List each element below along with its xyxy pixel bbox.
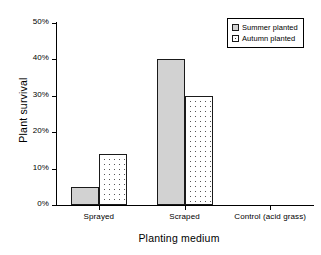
y-tick-label: 10% [33, 163, 49, 172]
y-tick-label: 50% [33, 17, 49, 26]
bar-summer-planted-sprayed [71, 187, 99, 205]
legend-item-autumn: Autumn planted [232, 33, 298, 44]
legend-swatch-summer-icon [232, 24, 239, 31]
y-tick: 20% [0, 132, 56, 133]
y-tick-label: 20% [33, 126, 49, 135]
y-tick: 10% [0, 169, 56, 170]
y-tick: 0% [0, 205, 56, 206]
legend: Summer planted Autumn planted [227, 18, 304, 48]
x-tick-mark [99, 205, 100, 210]
plot-area [56, 23, 313, 205]
legend-label-summer: Summer planted [242, 23, 298, 32]
bar-autumn-planted-scraped [185, 96, 213, 205]
y-tick: 50% [0, 23, 56, 24]
y-tick-label: 40% [33, 53, 49, 62]
bar-autumn-planted-sprayed [99, 154, 127, 205]
x-axis-title: Planting medium [44, 232, 314, 244]
y-tick-label: 30% [33, 90, 49, 99]
x-tick-mark [270, 205, 271, 210]
y-tick: 40% [0, 59, 56, 60]
y-tick-label: 0% [37, 199, 49, 208]
legend-item-summer: Summer planted [232, 22, 298, 33]
y-tick-mark [52, 205, 56, 206]
bar-chart: Plant survival Planting medium 0%10%20%3… [0, 0, 321, 255]
legend-swatch-autumn-icon [232, 35, 239, 42]
y-tick: 30% [0, 96, 56, 97]
legend-label-autumn: Autumn planted [242, 34, 295, 43]
bar-summer-planted-scraped [157, 59, 185, 205]
y-axis-title: Plant survival [17, 40, 29, 180]
x-tick-mark [185, 205, 186, 210]
x-axis-category-label: Control (acid grass) [210, 212, 321, 221]
